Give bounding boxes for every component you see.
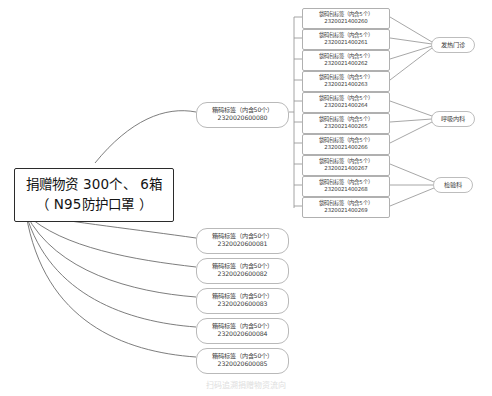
bag-code-label-4: 袋码包标签（内含5个）: [308, 95, 384, 102]
box-code-value-5: 2320020600085: [204, 360, 281, 368]
bag-code-node-3[interactable]: 袋码包标签（内含5个） 2320021400263: [302, 71, 390, 92]
bag-code-node-2[interactable]: 袋码包标签（内含5个） 2320021400262: [302, 50, 390, 71]
bag-code-label-8: 袋码包标签（内含5个）: [308, 179, 384, 186]
bag-code-node-1[interactable]: 袋码包标签（内含5个） 2320021400261: [302, 29, 390, 50]
bag-code-node-7[interactable]: 袋码包标签（内含5个） 2320021400267: [302, 155, 390, 176]
bag-code-value-8: 2320021400268: [308, 186, 384, 193]
bag-code-value-1: 2320021400261: [308, 39, 384, 46]
bag-code-node-5[interactable]: 袋码包标签（内含5个） 2320021400265: [302, 113, 390, 134]
box-code-label-1: 箱码标签（内含50个）: [204, 232, 281, 240]
bag-code-node-8[interactable]: 袋码包标签（内含5个） 2320021400268: [302, 176, 390, 197]
box-code-value-3: 2320020600083: [204, 300, 281, 308]
box-code-node-2[interactable]: 箱码标签（内含50个） 2320020600082: [196, 258, 289, 284]
bag-code-label-0: 袋码包标签（内含5个）: [308, 11, 384, 18]
box-code-label-2: 箱码标签（内含50个）: [204, 262, 281, 270]
bag-code-value-9: 2320021400269: [308, 207, 384, 214]
box-code-node-4[interactable]: 箱码标签（内含50个） 2320020600084: [196, 318, 289, 344]
bag-code-label-9: 袋码包标签（内含5个）: [308, 200, 384, 207]
box-code-node-1[interactable]: 箱码标签（内含50个） 2320020600081: [196, 228, 289, 254]
department-label-1: 呼吸内科: [439, 115, 467, 122]
box-code-node-3[interactable]: 箱码标签（内含50个） 2320020600083: [196, 288, 289, 314]
bag-code-value-4: 2320021400264: [308, 102, 384, 109]
box-code-label-5: 箱码标签（内含50个）: [204, 352, 281, 360]
box-code-label-0: 箱码标签（内含50个）: [204, 106, 281, 114]
bag-code-value-0: 2320021400260: [308, 18, 384, 25]
bag-code-label-7: 袋码包标签（内含5个）: [308, 158, 384, 165]
bottom-caption: 扫码追溯捐赠物资流向: [0, 379, 492, 396]
box-code-label-3: 箱码标签（内含50个）: [204, 292, 281, 300]
diagram-canvas: 捐赠物资 300个、 6箱 （ N95防护口罩 ） 箱码标签（内含50个） 23…: [0, 0, 492, 396]
box-code-node-5[interactable]: 箱码标签（内含50个） 2320020600085: [196, 348, 289, 374]
box-code-value-2: 2320020600082: [204, 270, 281, 278]
box-code-value-0: 2320020600080: [204, 114, 281, 122]
bag-code-node-9[interactable]: 袋码包标签（内含5个） 2320021400269: [302, 197, 390, 218]
department-node-respiratory[interactable]: 呼吸内科: [431, 111, 475, 127]
bag-code-node-0[interactable]: 袋码包标签（内含5个） 2320021400260: [302, 8, 390, 29]
department-label-0: 发热门诊: [439, 41, 467, 48]
box-code-node-0[interactable]: 箱码标签（内含50个） 2320020600080: [196, 102, 289, 128]
box-code-label-4: 箱码标签（内含50个）: [204, 322, 281, 330]
root-node-line-1: 捐赠物资 300个、 6箱: [23, 175, 165, 195]
department-label-2: 检验科: [441, 181, 465, 188]
box-code-value-1: 2320020600081: [204, 240, 281, 248]
bag-code-label-1: 袋码包标签（内含5个）: [308, 32, 384, 39]
box-code-value-4: 2320020600084: [204, 330, 281, 338]
department-node-fever-clinic[interactable]: 发热门诊: [431, 37, 475, 53]
bag-code-value-7: 2320021400267: [308, 165, 384, 172]
bag-code-value-6: 2320021400266: [308, 144, 384, 151]
bag-code-value-5: 2320021400265: [308, 123, 384, 130]
node-layer: 捐赠物资 300个、 6箱 （ N95防护口罩 ） 箱码标签（内含50个） 23…: [0, 0, 492, 396]
root-node-line-2: （ N95防护口罩 ）: [23, 195, 165, 215]
bag-code-label-2: 袋码包标签（内含5个）: [308, 53, 384, 60]
bag-code-label-3: 袋码包标签（内含5个）: [308, 74, 384, 81]
bag-code-label-6: 袋码包标签（内含5个）: [308, 137, 384, 144]
department-node-laboratory[interactable]: 检验科: [433, 177, 473, 193]
root-node-donated-supplies[interactable]: 捐赠物资 300个、 6箱 （ N95防护口罩 ）: [14, 168, 174, 222]
bag-code-value-2: 2320021400262: [308, 60, 384, 67]
bag-code-node-6[interactable]: 袋码包标签（内含5个） 2320021400266: [302, 134, 390, 155]
bag-code-value-3: 2320021400263: [308, 81, 384, 88]
bag-code-label-5: 袋码包标签（内含5个）: [308, 116, 384, 123]
bag-code-node-4[interactable]: 袋码包标签（内含5个） 2320021400264: [302, 92, 390, 113]
